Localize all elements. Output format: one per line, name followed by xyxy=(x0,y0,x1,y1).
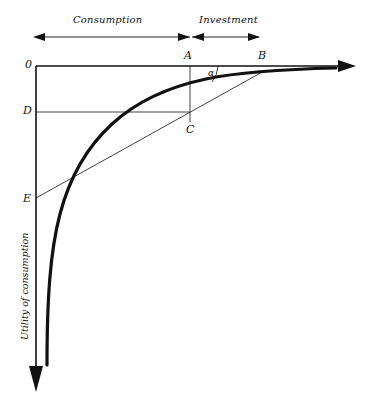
point-label-d: D xyxy=(23,105,32,116)
consumption-span-label: Consumption xyxy=(73,15,142,25)
point-label-a: A xyxy=(184,50,192,61)
investment-span-label: Investment xyxy=(199,15,258,25)
point-label-c: C xyxy=(186,124,194,135)
consumption-span-arrow xyxy=(33,33,190,41)
point-label-e: E xyxy=(23,193,31,204)
tangent-line-ecb xyxy=(36,71,264,198)
y-axis-label: Utility of consumption xyxy=(20,233,30,340)
utility-curve xyxy=(47,68,336,365)
point-label-origin: 0 xyxy=(25,59,32,70)
helper-lines xyxy=(36,66,190,122)
point-label-b: B xyxy=(258,50,266,61)
investment-span-arrow xyxy=(192,33,260,41)
angle-alpha-label: α xyxy=(208,69,214,78)
